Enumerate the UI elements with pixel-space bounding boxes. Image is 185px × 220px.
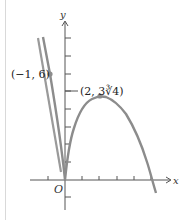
label-point-2-3cbrt4: (2, 3∛4) [80, 84, 124, 98]
figure: (−1, 6) (2, 3∛4) y x O [0, 0, 185, 220]
tangent-line [38, 38, 61, 172]
graph: (−1, 6) (2, 3∛4) y x O [0, 0, 185, 220]
y-axis-label: y [59, 9, 66, 20]
origin-label: O [54, 183, 63, 196]
x-axis-label: x [173, 175, 179, 186]
label-point-neg1-6: (−1, 6) [11, 68, 50, 81]
